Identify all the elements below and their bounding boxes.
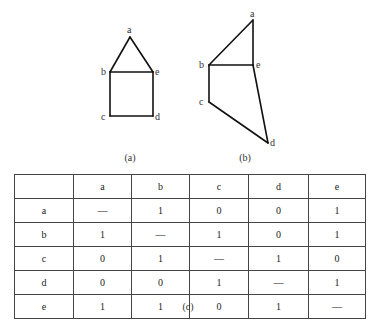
- edge-a-b: [209, 20, 253, 65]
- table-cell: 1: [309, 271, 366, 295]
- table-cell: 0: [249, 199, 309, 223]
- table-row: d 0 0 1 — 1: [15, 271, 366, 295]
- table-cell: 1: [309, 199, 366, 223]
- table-cell: 1: [190, 271, 249, 295]
- table-row: c 0 1 — 1 0: [15, 247, 366, 271]
- table-row: a — 1 0 0 1: [15, 199, 366, 223]
- table-cell: 1: [132, 247, 190, 271]
- table-cell: —: [132, 223, 190, 247]
- table-row: b 1 — 1 0 1: [15, 223, 366, 247]
- vertex-label-e: e: [256, 59, 261, 70]
- table-cell: 0: [190, 199, 249, 223]
- vertex-label-a: a: [250, 8, 255, 19]
- vertex-label-b: b: [199, 59, 204, 70]
- column-header: d: [249, 175, 309, 199]
- vertex-label-d: d: [155, 111, 160, 122]
- vertex-label-a: a: [127, 24, 132, 35]
- column-header: c: [190, 175, 249, 199]
- column-header: b: [132, 175, 190, 199]
- table-cell: —: [74, 199, 132, 223]
- adjacency-matrix-table: a b c d e a — 1 0 0 1 b 1 — 1 0 1 c 0 1 …: [14, 174, 366, 319]
- row-header: a: [15, 199, 74, 223]
- table-cell: 1: [74, 223, 132, 247]
- column-header: a: [74, 175, 132, 199]
- row-header: d: [15, 271, 74, 295]
- table-cell: —: [249, 271, 309, 295]
- edge-e-d: [253, 65, 268, 143]
- row-header: c: [15, 247, 74, 271]
- row-header: b: [15, 223, 74, 247]
- caption-b: (b): [239, 152, 251, 164]
- column-header: e: [309, 175, 366, 199]
- edge-a-e: [130, 37, 153, 72]
- table-cell: 0: [74, 271, 132, 295]
- table-cell: 0: [249, 223, 309, 247]
- table-cell: 1: [190, 223, 249, 247]
- table-cell: 0: [309, 247, 366, 271]
- vertex-label-b: b: [101, 66, 106, 77]
- edge-a-b: [110, 37, 130, 72]
- caption-a: (a): [124, 152, 135, 164]
- table-cell: 1: [132, 199, 190, 223]
- graph-figures: abecd abecd (a) (b): [0, 0, 376, 170]
- table-cell: 1: [249, 247, 309, 271]
- table-header-row: a b c d e: [15, 175, 366, 199]
- edge-c-d: [209, 102, 268, 143]
- table-cell: —: [190, 247, 249, 271]
- table-cell: 1: [309, 223, 366, 247]
- corner-cell: [15, 175, 74, 199]
- vertex-label-d: d: [270, 137, 275, 148]
- caption-c: (c): [0, 301, 376, 312]
- graph-b: abecd: [199, 8, 275, 148]
- vertex-label-c: c: [101, 111, 106, 122]
- table-cell: 0: [132, 271, 190, 295]
- table-cell: 0: [74, 247, 132, 271]
- graph-a: abecd: [101, 24, 160, 122]
- vertex-label-e: e: [155, 66, 160, 77]
- vertex-label-c: c: [199, 96, 204, 107]
